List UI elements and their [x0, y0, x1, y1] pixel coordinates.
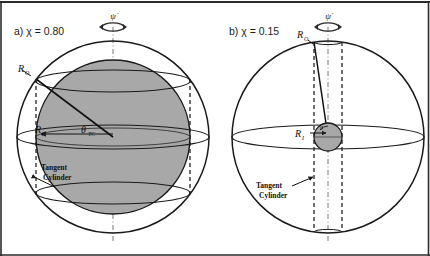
rotation-arrow-head-left-a — [99, 24, 103, 30]
svg-text:θ: θ — [320, 125, 323, 131]
panel-a-title: a) χ = 0.80 — [14, 25, 64, 37]
svg-text:Cylinder: Cylinder — [43, 173, 72, 182]
outer-radius-label-b: R O — [296, 29, 309, 42]
svg-text:Tangent: Tangent — [41, 163, 67, 172]
svg-text:TC: TC — [88, 131, 96, 137]
tangent-cylinder-diagram: ψ̇ a) χ = 0.80 R O R I θ TC Tangent — [0, 0, 430, 256]
psi-dot-label-b: ψ̇ — [325, 11, 334, 21]
rotation-arrow-head-right-a — [123, 24, 127, 30]
svg-text:O: O — [25, 70, 30, 76]
inner-radius-label-b: R I — [294, 128, 305, 141]
svg-text:θ: θ — [81, 124, 86, 135]
tangent-cylinder-label-b: Tangent Cylinder — [256, 181, 288, 200]
svg-text:R: R — [296, 29, 303, 40]
figure-container: ψ̇ a) χ = 0.80 R O R I θ TC Tangent — [0, 0, 430, 256]
rotation-arrow-head-right-b — [338, 24, 342, 30]
rotation-arrow-head-left-b — [314, 24, 318, 30]
panel-a: ψ̇ a) χ = 0.80 R O R I θ TC Tangent — [14, 11, 209, 243]
svg-text:R: R — [294, 128, 301, 139]
svg-text:I: I — [301, 135, 305, 141]
psi-dot-label-a: ψ̇ — [110, 11, 119, 21]
svg-text:O: O — [304, 36, 309, 42]
theta-tc-label-b: θ — [320, 125, 323, 131]
svg-text:Cylinder: Cylinder — [259, 191, 288, 200]
panel-b: ψ̇ b) χ = 0.15 R O R I θ Tangent Cylinde… — [229, 11, 424, 243]
tangent-cylinder-leader-b — [292, 177, 313, 186]
outer-radius-label-a: R O — [17, 63, 30, 76]
svg-text:Tangent: Tangent — [256, 181, 282, 190]
svg-text:R: R — [34, 124, 41, 135]
svg-text:R: R — [17, 63, 24, 74]
panel-b-title: b) χ = 0.15 — [229, 25, 279, 37]
